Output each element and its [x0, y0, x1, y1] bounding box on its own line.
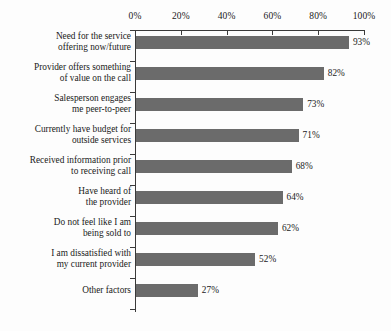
y-tick-mark: [130, 278, 135, 279]
bar-value-label: 64%: [287, 191, 304, 204]
x-tick-mark: [135, 30, 136, 35]
category-label: Provider offers something of value on th…: [34, 62, 131, 85]
y-tick-mark: [130, 309, 135, 310]
bar: [136, 160, 292, 173]
x-tick-mark: [364, 30, 365, 35]
category-label: I am dissatisfied with my current provid…: [51, 248, 131, 271]
category-label: Salesperson engages me peer-to-peer: [54, 93, 131, 116]
bar: [136, 129, 299, 142]
x-tick-label: 0%: [129, 11, 142, 21]
x-tick-label: 80%: [309, 11, 327, 21]
x-tick-mark: [181, 30, 182, 35]
bar: [136, 191, 283, 204]
category-label: Need for the service offering now/future: [56, 31, 131, 54]
bar-value-label: 93%: [353, 36, 370, 49]
category-label: Have heard of the provider: [78, 186, 131, 209]
x-tick-label: 100%: [353, 11, 376, 21]
bar: [136, 222, 278, 235]
bar: [136, 284, 198, 297]
category-label: Received information prior to receiving …: [30, 155, 131, 178]
x-tick-label: 60%: [264, 11, 282, 21]
x-tick-mark: [318, 30, 319, 35]
bar: [136, 98, 303, 111]
bar-chart: 0%20%40%60%80%100% Need for the service …: [0, 0, 391, 331]
x-tick-label: 40%: [218, 11, 236, 21]
x-tick-mark: [227, 30, 228, 35]
bar-value-label: 82%: [328, 67, 345, 80]
bar-value-label: 68%: [296, 160, 313, 173]
x-tick-label: 20%: [172, 11, 190, 21]
bar: [136, 67, 324, 80]
bar-value-label: 62%: [282, 222, 299, 235]
bar-value-label: 27%: [202, 284, 219, 297]
bar: [136, 253, 255, 266]
bar-value-label: 71%: [303, 129, 320, 142]
bar: [136, 36, 349, 49]
category-label: Other factors: [82, 285, 131, 297]
category-label: Currently have budget for outside servic…: [35, 124, 131, 147]
bar-value-label: 73%: [307, 98, 324, 111]
bar-value-label: 52%: [259, 253, 276, 266]
x-axis-line: [135, 30, 364, 31]
category-label: Do not feel like I am being sold to: [54, 217, 131, 240]
x-tick-mark: [272, 30, 273, 35]
